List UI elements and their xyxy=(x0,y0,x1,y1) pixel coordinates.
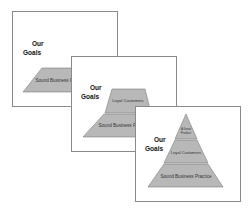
pyramid: A GreatProduct Loyal Customers Sound Bus… xyxy=(136,107,240,201)
tier-label: A GreatProduct xyxy=(181,127,192,134)
slide-3: Our Goals A GreatProduct Loyal Customers… xyxy=(135,106,241,202)
tier-label: Loyal Customers xyxy=(112,98,143,103)
tier-label: Loyal Customers xyxy=(171,150,201,155)
tier-label: Sound Business Practice xyxy=(160,174,212,179)
